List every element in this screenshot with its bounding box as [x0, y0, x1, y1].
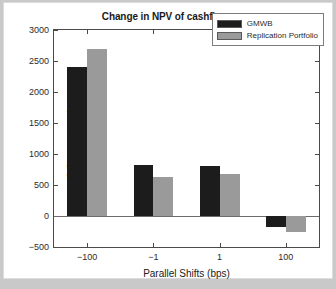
x-tick-label: 1 — [217, 252, 222, 262]
x-axis-title: Parallel Shifts (bps) — [54, 268, 319, 279]
x-tick-mark — [220, 243, 221, 247]
x-tick-label: −1 — [148, 252, 158, 262]
bar-replication-portfolio-100 — [286, 216, 306, 232]
y-tick-mark — [315, 185, 319, 186]
y-tick-mark — [54, 92, 58, 93]
bar-gmwb--100 — [67, 67, 87, 216]
y-tick-mark — [315, 154, 319, 155]
y-tick-mark — [315, 247, 319, 248]
y-tick-mark — [54, 123, 58, 124]
bar-gmwb-1 — [200, 166, 220, 216]
bar-replication-portfolio--100 — [87, 49, 107, 216]
x-tick-mark — [87, 243, 88, 247]
bar-gmwb--1 — [134, 165, 154, 216]
legend-item: GMWB — [217, 18, 318, 29]
legend-swatch-icon — [217, 32, 242, 40]
bar-replication-portfolio-1 — [220, 174, 240, 216]
y-tick-mark — [315, 61, 319, 62]
y-tick-label: 2000 — [29, 87, 49, 97]
legend-label: Replication Portfolio — [247, 31, 318, 40]
figure-canvas: Change in NPV of cashflows $ Change in p… — [3, 2, 333, 279]
plot-area: $ Change in price Parallel Shifts (bps) … — [53, 29, 320, 248]
y-tick-mark — [54, 61, 58, 62]
y-tick-mark — [315, 92, 319, 93]
y-tick-label: 0 — [44, 211, 49, 221]
x-tick-label: 100 — [278, 252, 293, 262]
x-tick-label: −100 — [77, 252, 97, 262]
chart-legend: GMWBReplication Portfolio — [212, 13, 324, 46]
y-tick-mark — [54, 247, 58, 248]
bar-gmwb-100 — [266, 216, 286, 227]
y-tick-label: 3000 — [29, 25, 49, 35]
y-tick-mark — [54, 185, 58, 186]
y-tick-label: 1000 — [29, 149, 49, 159]
legend-swatch-icon — [217, 20, 242, 28]
y-tick-mark — [315, 123, 319, 124]
y-tick-label: −500 — [29, 242, 49, 252]
x-tick-mark — [153, 243, 154, 247]
legend-item: Replication Portfolio — [217, 30, 318, 41]
bar-replication-portfolio--1 — [153, 177, 173, 216]
y-tick-mark — [54, 154, 58, 155]
y-tick-label: 2500 — [29, 56, 49, 66]
y-tick-label: 1500 — [29, 118, 49, 128]
x-tick-mark — [87, 30, 88, 34]
y-tick-mark — [54, 30, 58, 31]
legend-label: GMWB — [247, 19, 273, 28]
y-tick-label: 500 — [34, 180, 49, 190]
x-tick-mark — [153, 30, 154, 34]
x-tick-mark — [286, 243, 287, 247]
